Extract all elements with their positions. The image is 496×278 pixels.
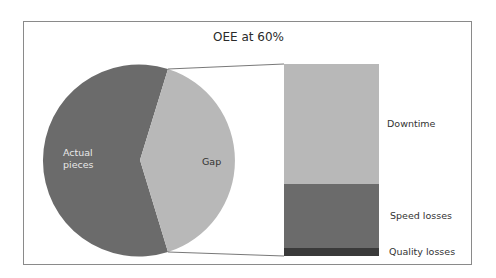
- stacked-bar: [284, 64, 379, 256]
- bar-segment-quality-losses: [284, 248, 379, 256]
- connector-line-top: [168, 64, 284, 69]
- bar-label-downtime: Downtime: [387, 118, 435, 130]
- bar-label-quality-losses: Quality losses: [389, 246, 455, 258]
- bar-segment-speed-losses: [284, 184, 379, 248]
- pie-label-actual-pieces: Actual pieces: [63, 147, 94, 171]
- pie-label-gap: Gap: [202, 156, 221, 168]
- connector-line-bottom: [168, 252, 284, 256]
- bar-label-speed-losses: Speed losses: [390, 210, 452, 222]
- bar-segment-downtime: [284, 64, 379, 184]
- chart-canvas: [0, 0, 496, 278]
- pie-label-actual-line2: pieces: [63, 159, 94, 171]
- pie-label-actual-line1: Actual: [63, 147, 94, 159]
